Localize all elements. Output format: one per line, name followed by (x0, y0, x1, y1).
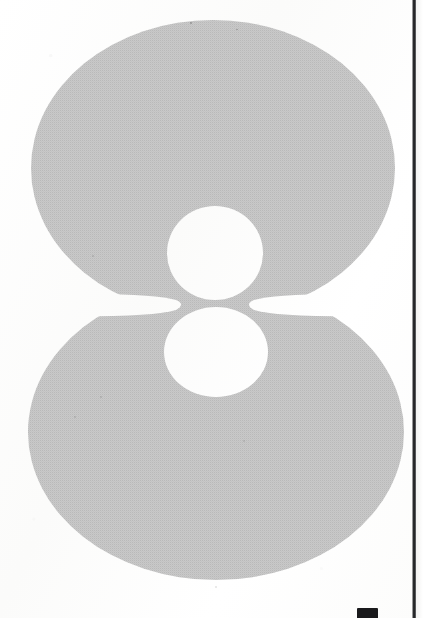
scan-speck (243, 440, 245, 442)
scan-edge-line (412, 0, 416, 618)
scan-speck (100, 396, 102, 398)
glyph-body (0, 0, 423, 618)
scan-speck (190, 22, 192, 24)
scan-speck (236, 29, 238, 30)
scan-speck (215, 586, 217, 588)
scanned-page (0, 0, 423, 618)
scan-speck (92, 255, 94, 257)
scan-speck (74, 416, 76, 418)
numeral-eight-glyph (0, 0, 423, 618)
page-margin-right (416, 0, 423, 618)
bottom-clipped-glyph-stem (366, 612, 373, 618)
